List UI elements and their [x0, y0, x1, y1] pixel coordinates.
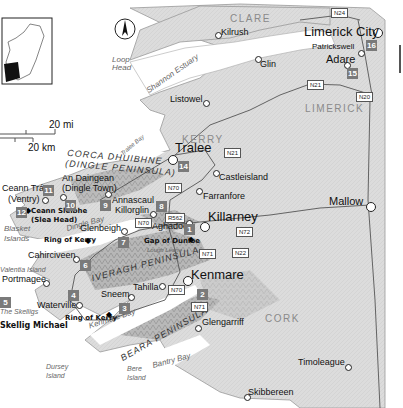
stop-16: 16: [366, 40, 377, 51]
town-timoleague: Timoleague: [298, 358, 345, 367]
town-an-daingean: An Daingean: [62, 174, 114, 183]
road-shield-n70-mid: N70: [135, 218, 152, 228]
town-patrickswell: Patrickswell: [312, 43, 354, 51]
water-bere-island: Bere Island: [127, 364, 147, 382]
stop-4: 4: [68, 290, 79, 301]
road-shield-n72: N72: [236, 227, 253, 237]
town-glengarriff: Glengarriff: [202, 318, 244, 327]
town-killarney: Killarney: [208, 210, 258, 223]
county-clare: CLARE: [230, 14, 271, 24]
town-cahirciveen: Cahirciveen: [28, 251, 76, 260]
town-dot-mallow: [366, 202, 376, 212]
town-skibbereen: Skibbereen: [248, 388, 294, 397]
town-dot-glengarriff: [195, 325, 202, 332]
town-dot-timoleague: [345, 364, 352, 371]
town-listowel: Listowel: [170, 95, 203, 104]
town-dot-tralee: [168, 155, 178, 165]
stop-9: 9: [100, 200, 111, 211]
poi-ceann-sleibhe: Ceann Sléibhe: [31, 208, 87, 215]
poi-gap-of-dunloe: Gap of Dunloe: [144, 238, 200, 245]
town-aghadoe: Aghadoe: [152, 222, 188, 231]
road-shield-n71-north: N71: [199, 249, 216, 259]
water-loop-head: Loop Head: [112, 56, 132, 72]
road-shield-n20: N20: [356, 92, 373, 102]
town-dot-glenbeigh: [121, 228, 128, 235]
town-dot-tahilla: [159, 283, 166, 290]
water-dursey-island: Dursey Island: [46, 362, 72, 380]
poi-ring-of-kerry-north: Ring of Kerry: [44, 237, 96, 244]
town-waterville: Waterville: [37, 301, 76, 310]
county-cork: CORK: [265, 314, 300, 324]
town-kilrush: Kilrush: [221, 28, 249, 37]
town-dot-patrickswell: [358, 50, 365, 57]
town-mallow: Mallow: [329, 196, 363, 207]
water-the-skelligs: The Skelligs: [0, 308, 38, 315]
stop-6: 6: [80, 260, 91, 271]
town-limerick-city: Limerick City: [304, 25, 378, 38]
poi-ring-of-kerry-south: Ring of Kerry: [65, 315, 117, 322]
scale-miles-label: 20 mi: [49, 120, 73, 130]
water-valentia-island: Valentia Island: [0, 266, 46, 273]
town-tahilla: Tahilla: [133, 283, 159, 292]
water-blasket-islands: Blasket Islands: [4, 224, 38, 245]
town-tralee: Tralee: [175, 141, 211, 154]
town-killorglin: Killorglin: [115, 206, 149, 215]
stop-5: 5: [0, 297, 11, 308]
town-dingle-town: (Dingle Town): [62, 184, 117, 193]
map-canvas: N 20 mi 20 km CLARE KERRY LIMERICK CORK …: [0, 0, 403, 408]
stop-2: 2: [197, 289, 208, 300]
road-shield-n21-limerick: N21: [307, 80, 324, 90]
town-sneem: Sneem: [101, 290, 130, 299]
water-lough-leane: Lough Leane: [147, 247, 182, 253]
town-ventry: (Ventry): [8, 195, 40, 204]
scale-km-label: 20 km: [28, 143, 55, 153]
stop-3: 3: [119, 303, 130, 314]
stop-7: 7: [118, 237, 129, 248]
road-shield-n24: N24: [331, 8, 348, 18]
stop-10: 10: [65, 200, 76, 211]
town-dot-listowel: [203, 100, 210, 107]
poi-slea-head: (Slea Head): [31, 217, 77, 224]
town-dot-killorglin: [150, 211, 157, 218]
town-castleisland: Castleisland: [219, 173, 268, 182]
town-glenbeigh: Glenbeigh: [80, 224, 121, 233]
road-shield-n70-south: N70: [168, 285, 185, 295]
town-dot-farranfore: [196, 188, 203, 195]
road-shield-n21-kerry: N21: [224, 148, 241, 158]
stop-12: 12: [16, 207, 27, 218]
stop-11: 11: [43, 185, 54, 196]
town-adare: Adare: [326, 54, 355, 65]
stop-15: 15: [347, 68, 358, 79]
town-dot-waterville: [76, 302, 83, 309]
poi-skellig-michael: Skellig Michael: [0, 322, 68, 330]
road-shield-r562: R562: [165, 213, 185, 223]
town-ceann-tra: Ceann Trá: [2, 184, 44, 193]
town-portmagee: Portmagee: [2, 275, 46, 284]
road-shield-n70-north: N70: [165, 183, 182, 193]
town-farranfore: Farranfore: [203, 192, 245, 201]
town-annascaul: Annascaul: [112, 196, 154, 205]
town-glin: Glin: [260, 60, 276, 69]
town-dot-ventry: [42, 197, 49, 204]
county-limerick: LIMERICK: [305, 104, 364, 114]
stop-8: 8: [156, 201, 167, 212]
road-shield-n22: N22: [232, 248, 249, 258]
stop-1: 1: [184, 224, 195, 235]
road-shield-n71-south: N71: [191, 302, 208, 312]
stop-14: 14: [178, 161, 189, 172]
town-kenmare: Kenmare: [191, 268, 244, 281]
